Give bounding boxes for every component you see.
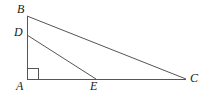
figure-canvas [0,0,205,96]
segment-bc [27,16,186,79]
segment-de [27,35,96,79]
segments-group [27,16,186,79]
right-angle-marker [28,68,38,79]
vertex-label-c: C [190,72,198,84]
geometry-figure: B D A E C [0,0,205,96]
vertex-label-a: A [16,80,23,92]
vertex-label-e: E [90,80,97,92]
vertex-label-d: D [14,26,23,38]
vertex-label-b: B [17,3,24,15]
